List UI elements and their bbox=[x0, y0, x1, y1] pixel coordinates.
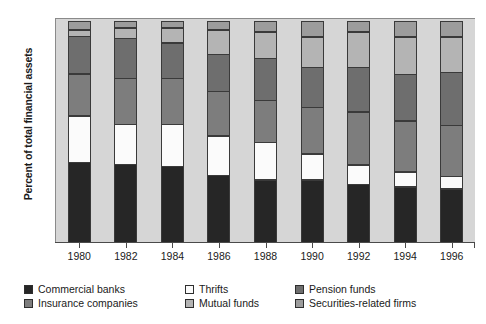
bar-slot bbox=[289, 19, 336, 242]
legend-label-securities-related-firms: Securities-related firms bbox=[309, 297, 416, 309]
legend-item-insurance-companies: Insurance companies bbox=[24, 297, 185, 309]
bar-segment bbox=[301, 67, 324, 107]
legend-row-2: Insurance companies Mutual funds Securit… bbox=[24, 297, 468, 309]
stacked-bar-chart: Percent of total financial assets 020406… bbox=[0, 0, 486, 324]
bar-slot bbox=[149, 19, 196, 242]
bar-segment bbox=[394, 121, 417, 173]
bar-segment bbox=[68, 74, 91, 117]
bar-segment bbox=[440, 21, 463, 37]
bar-segment bbox=[68, 21, 91, 30]
bar-segment bbox=[161, 78, 184, 125]
bar-segment bbox=[301, 154, 324, 181]
x-axis-tick-slot bbox=[196, 243, 243, 249]
x-axis-tick-slot bbox=[242, 243, 289, 249]
bar-segment bbox=[301, 180, 324, 243]
bar-segment bbox=[207, 136, 230, 176]
bar-segment bbox=[301, 107, 324, 154]
bar-segment bbox=[207, 30, 230, 55]
legend-swatch-insurance-companies bbox=[24, 299, 33, 308]
legend-label-commercial-banks: Commercial banks bbox=[38, 283, 125, 295]
legend-swatch-securities-related-firms bbox=[295, 299, 304, 308]
bar-slot bbox=[103, 19, 150, 242]
bar-segment bbox=[68, 36, 91, 74]
x-axis-tick-slot bbox=[429, 243, 476, 249]
legend-label-mutual-funds: Mutual funds bbox=[199, 297, 259, 309]
x-axis-tick-slot bbox=[335, 243, 382, 249]
x-axis-tickmark bbox=[359, 243, 360, 248]
bar-segment bbox=[161, 21, 184, 28]
x-axis-labels: 198019821984198619881990199219941996 bbox=[56, 250, 475, 262]
bar-segment bbox=[207, 175, 230, 242]
bar-segment bbox=[114, 28, 137, 39]
x-axis-tick-label: 1990 bbox=[289, 250, 336, 262]
stacked-bar[interactable] bbox=[394, 19, 417, 242]
bar-segment bbox=[440, 72, 463, 126]
bar-segment bbox=[207, 91, 230, 136]
x-axis-tick-slot bbox=[382, 243, 429, 249]
bar-segment bbox=[440, 37, 463, 73]
legend-item-securities-related-firms: Securities-related firms bbox=[295, 297, 416, 309]
legend-swatch-commercial-banks bbox=[24, 285, 33, 294]
x-axis-tickmark bbox=[79, 243, 80, 248]
bar-segment bbox=[440, 125, 463, 177]
stacked-bar[interactable] bbox=[440, 19, 463, 242]
bar-segment bbox=[207, 21, 230, 30]
bar-segment bbox=[254, 142, 277, 180]
bar-segment bbox=[394, 74, 417, 121]
bar-group bbox=[56, 19, 475, 242]
stacked-bar[interactable] bbox=[161, 19, 184, 242]
bar-segment bbox=[254, 100, 277, 143]
x-axis-tick-slot bbox=[103, 243, 150, 249]
stacked-bar[interactable] bbox=[254, 19, 277, 242]
bar-slot bbox=[242, 19, 289, 242]
bar-segment bbox=[161, 124, 184, 167]
bar-segment bbox=[161, 43, 184, 79]
legend-item-commercial-banks: Commercial banks bbox=[24, 283, 185, 295]
bar-segment bbox=[254, 58, 277, 101]
x-axis-tickmark bbox=[172, 243, 173, 248]
bar-segment bbox=[440, 189, 463, 243]
bar-segment bbox=[347, 67, 370, 112]
x-axis-tick-slot bbox=[56, 243, 103, 249]
bar-segment bbox=[301, 21, 324, 37]
stacked-bar[interactable] bbox=[114, 19, 137, 242]
x-axis-tickmark bbox=[452, 243, 453, 248]
x-axis-tick-label: 1988 bbox=[242, 250, 289, 262]
bar-segment bbox=[114, 38, 137, 78]
legend-label-pension-funds: Pension funds bbox=[309, 283, 376, 295]
bar-segment bbox=[347, 184, 370, 242]
legend-swatch-thrifts bbox=[185, 285, 194, 294]
x-axis-tick-label: 1996 bbox=[429, 250, 476, 262]
x-axis-tick-label: 1980 bbox=[56, 250, 103, 262]
bar-slot bbox=[56, 19, 103, 242]
bar-segment bbox=[68, 116, 91, 163]
x-axis-tickmark bbox=[266, 243, 267, 248]
legend-swatch-mutual-funds bbox=[185, 299, 194, 308]
x-axis-tick-label: 1994 bbox=[382, 250, 429, 262]
x-axis-tick-label: 1984 bbox=[149, 250, 196, 262]
bar-segment bbox=[207, 54, 230, 92]
bar-segment bbox=[114, 124, 137, 164]
stacked-bar[interactable] bbox=[347, 19, 370, 242]
x-axis-tick-label: 1982 bbox=[103, 250, 150, 262]
bar-segment bbox=[394, 172, 417, 188]
stacked-bar[interactable] bbox=[207, 19, 230, 242]
x-axis-tick-slot bbox=[149, 243, 196, 249]
chart-legend: Commercial banks Thrifts Pension funds I… bbox=[24, 283, 468, 311]
bar-segment bbox=[254, 180, 277, 243]
bar-segment bbox=[161, 166, 184, 242]
bar-slot bbox=[382, 19, 429, 242]
bar-segment bbox=[254, 32, 277, 59]
bar-segment bbox=[394, 187, 417, 243]
bar-segment bbox=[394, 37, 417, 75]
bar-segment bbox=[114, 21, 137, 28]
stacked-bar[interactable] bbox=[301, 19, 324, 242]
x-axis-tick-label: 1986 bbox=[196, 250, 243, 262]
legend-row-1: Commercial banks Thrifts Pension funds bbox=[24, 283, 468, 295]
bar-segment bbox=[301, 37, 324, 68]
stacked-bar[interactable] bbox=[68, 19, 91, 242]
y-axis-title: Percent of total financial assets bbox=[22, 19, 34, 229]
legend-swatch-pension-funds bbox=[295, 285, 304, 294]
bar-segment bbox=[114, 164, 137, 242]
bar-segment bbox=[68, 162, 91, 243]
